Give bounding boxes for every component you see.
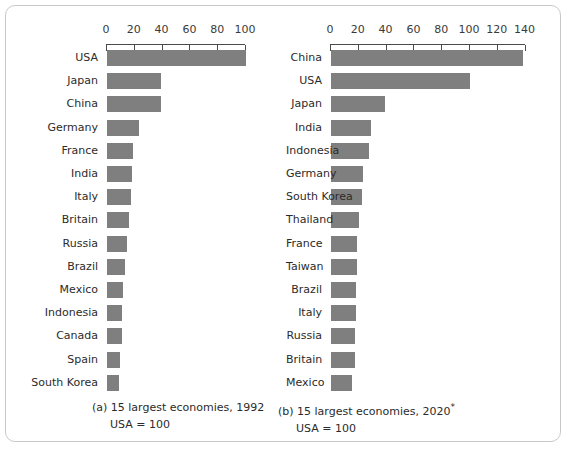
panel-caption-line1: (b) 15 largest economies, 2020 xyxy=(278,405,450,418)
bar xyxy=(107,212,129,228)
bar xyxy=(331,328,355,344)
bar-category-label: USA xyxy=(0,50,98,66)
bar xyxy=(107,166,132,182)
x-axis-tick-label: 100 xyxy=(459,23,480,36)
bar xyxy=(331,236,357,252)
panel-caption: (a) 15 largest economies, 1992USA = 100 xyxy=(92,399,264,433)
bar xyxy=(331,352,355,368)
bar xyxy=(107,305,122,321)
bar xyxy=(331,96,385,112)
bar-category-label: Britain xyxy=(286,352,322,368)
bar xyxy=(331,375,352,391)
bar-category-label: Brazil xyxy=(0,259,98,275)
bar-category-label: Mexico xyxy=(286,375,322,391)
x-axis-tick-label: 0 xyxy=(327,23,334,36)
bar xyxy=(331,73,470,89)
bar xyxy=(107,328,122,344)
panel-caption-line2: USA = 100 xyxy=(278,420,455,437)
bar-category-label: Russia xyxy=(286,328,322,344)
panel-caption: (b) 15 largest economies, 2020*USA = 100 xyxy=(278,399,455,437)
bar xyxy=(107,143,133,159)
panel-caption-footnote-marker: * xyxy=(450,402,455,412)
bar-category-label: Thailand xyxy=(286,212,322,228)
bar xyxy=(331,50,523,66)
bar-category-label: USA xyxy=(286,73,322,89)
bar-category-label: Spain xyxy=(0,352,98,368)
bar xyxy=(331,212,359,228)
bar xyxy=(107,50,246,66)
bar-category-label: Brazil xyxy=(286,282,322,298)
bar xyxy=(107,352,120,368)
bar-category-label: Mexico xyxy=(0,282,98,298)
bar-category-label: Italy xyxy=(286,305,322,321)
bar xyxy=(331,305,356,321)
x-axis-tick-label: 40 xyxy=(379,23,393,36)
bar-category-label: Indonesia xyxy=(286,143,322,159)
x-axis-tick-label: 80 xyxy=(210,23,224,36)
x-axis-tick-label: 20 xyxy=(127,23,141,36)
x-axis-tick xyxy=(525,45,526,51)
chart-panel-b: 020406080100120140ChinaUSAJapanIndiaIndo… xyxy=(286,0,572,454)
bar xyxy=(107,96,161,112)
bar-category-label: Indonesia xyxy=(0,305,98,321)
bar-category-label: China xyxy=(286,50,322,66)
chart-panel-a: 020406080100USAJapanChinaGermanyFranceIn… xyxy=(0,0,286,454)
figure-container: 020406080100USAJapanChinaGermanyFranceIn… xyxy=(0,0,572,454)
bar xyxy=(107,259,125,275)
bar-category-label: Germany xyxy=(0,120,98,136)
bar-category-label: France xyxy=(0,143,98,159)
bar xyxy=(331,259,357,275)
x-axis-tick-label: 100 xyxy=(235,23,256,36)
bar-category-label: China xyxy=(0,96,98,112)
bar-category-label: Canada xyxy=(0,328,98,344)
x-axis-tick-label: 120 xyxy=(486,23,507,36)
bar-category-label: France xyxy=(286,236,322,252)
bar xyxy=(107,189,131,205)
bar xyxy=(107,282,123,298)
x-axis-tick-label: 60 xyxy=(406,23,420,36)
bar-category-label: Taiwan xyxy=(286,259,322,275)
bar-category-label: Britain xyxy=(0,212,98,228)
x-axis-line xyxy=(106,44,245,45)
bar-category-label: Japan xyxy=(286,96,322,112)
x-axis-tick-label: 140 xyxy=(514,23,535,36)
bar-category-label: South Korea xyxy=(0,375,98,391)
x-axis-tick-label: 0 xyxy=(103,23,110,36)
bar-category-label: Japan xyxy=(0,73,98,89)
panel-caption-line1: (a) 15 largest economies, 1992 xyxy=(92,401,264,414)
bar xyxy=(107,73,161,89)
bar-category-label: Russia xyxy=(0,236,98,252)
bar-category-label: India xyxy=(0,166,98,182)
bar-category-label: India xyxy=(286,120,322,136)
bar-category-label: Italy xyxy=(0,189,98,205)
bar xyxy=(107,120,139,136)
bar xyxy=(331,282,356,298)
x-axis-line xyxy=(330,44,525,45)
x-axis-tick-label: 60 xyxy=(182,23,196,36)
x-axis-tick-label: 40 xyxy=(155,23,169,36)
bar xyxy=(107,236,127,252)
x-axis-tick-label: 80 xyxy=(434,23,448,36)
x-axis-tick-label: 20 xyxy=(351,23,365,36)
bar xyxy=(331,120,371,136)
bar xyxy=(107,375,119,391)
bar-category-label: Germany xyxy=(286,166,322,182)
bar-category-label: South Korea xyxy=(286,189,322,205)
panel-caption-line2: USA = 100 xyxy=(92,416,264,433)
